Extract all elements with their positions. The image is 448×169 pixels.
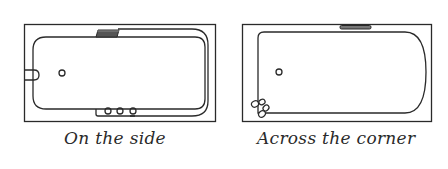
bath-on-the-side [25,25,216,122]
caption-across-the-corner: Across the corner [257,128,415,148]
bath-across-the-corner [243,25,432,122]
tap-block-outline [96,109,135,116]
plug-hole-icon [59,70,65,76]
bath-outer-rim [25,25,216,122]
bath-deck-curve [118,29,208,116]
caption-on-the-side: On the side [64,128,166,148]
bath-inner-basin [258,32,426,113]
bath-layout-figure: On the side Across the corner [0,0,448,169]
overflow-drain-icon [25,70,39,80]
grip-handle-icon [340,26,371,30]
plug-hole-icon [276,69,282,75]
corner-taps-icon [250,98,270,118]
grip-handle-icon [96,30,119,37]
bath-outer-rim [243,25,432,122]
